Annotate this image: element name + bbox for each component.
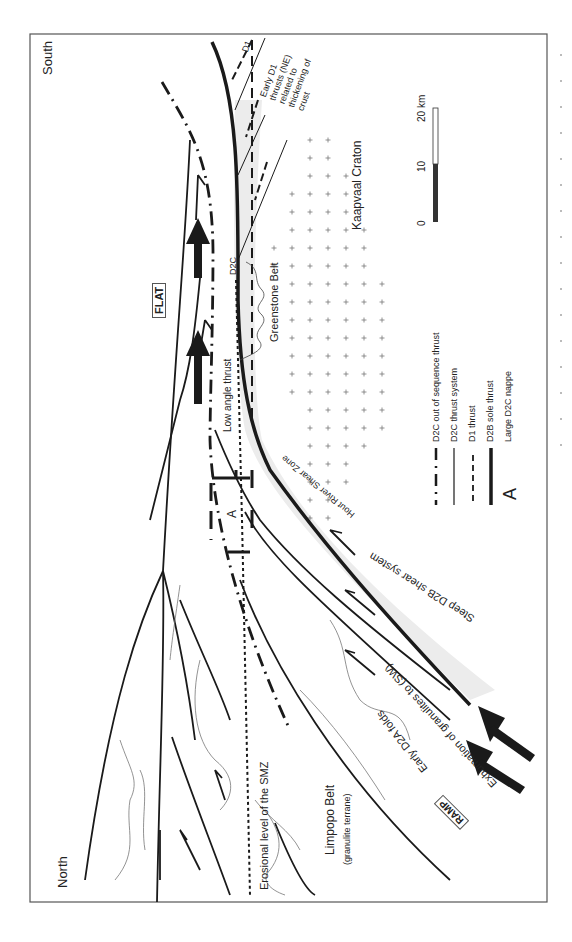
label-low-angle-thrust: Low angle thrust <box>222 359 233 432</box>
label-limpopo-belt: Limpopo Belt <box>323 785 337 855</box>
label-north: North <box>55 856 70 888</box>
d2c-thrust <box>215 430 450 690</box>
scale-bar <box>433 108 438 222</box>
label-erosional-level: Erosional level of the SMZ <box>258 762 270 890</box>
label-greenstone-belt: Greenstone Belt <box>268 263 280 343</box>
d2c-thrust <box>275 823 315 895</box>
scale-tick-20: 20 km <box>416 95 427 122</box>
scale-tick-0: 0 <box>416 220 427 226</box>
nappe-bracket <box>212 470 250 478</box>
ramp-movement-arrows <box>466 706 535 794</box>
legend-label-d2c-oos: D2C out of sequence thrust <box>431 332 441 442</box>
label-flat: FLAT <box>152 283 166 318</box>
thrust-fan-branch <box>85 571 163 880</box>
label-south: South <box>40 41 55 75</box>
legend-symbols <box>436 448 491 505</box>
geological-cross-section <box>0 0 572 942</box>
nappe-outline <box>211 470 252 540</box>
scale-tick-10: 10 <box>416 161 427 172</box>
legend-symbol-a: A <box>500 488 521 500</box>
figure-caption-margin <box>556 30 566 920</box>
legend-label-d2c-thrust: D2C thrust system <box>449 368 459 442</box>
label-kaapvaal-craton: Kaapvaal Craton <box>350 141 364 230</box>
legend-label-d2b-sole: D2B sole thrust <box>485 380 495 442</box>
legend-label-nappe: Large D2C nappe <box>503 371 513 442</box>
d2c-thrust <box>180 600 230 720</box>
legend-label-d1-thrust: D1 thrust <box>467 405 477 442</box>
label-d2c: D2C <box>228 257 238 275</box>
thrust-fan-branch <box>163 571 195 740</box>
d2c-thrust <box>245 512 450 720</box>
thrust-fan-main <box>163 140 190 571</box>
flat-movement-arrows <box>186 218 210 404</box>
label-nappe-a: A <box>225 510 239 518</box>
label-granulite-terrane: (granulite terrane) <box>342 793 352 865</box>
d2c-thrust <box>172 737 230 895</box>
